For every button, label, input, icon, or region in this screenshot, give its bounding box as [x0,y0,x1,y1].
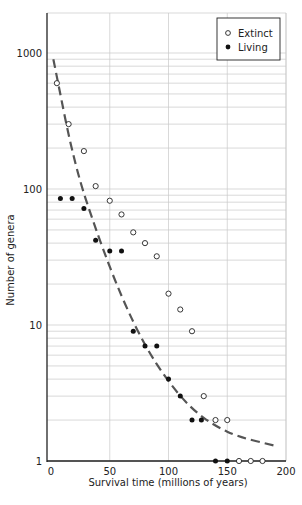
y-tick-label: 1 [36,456,42,467]
living-point [190,418,195,423]
legend-extinct: Extinct [238,28,273,39]
living-point [213,459,218,464]
extinct-point [225,417,230,422]
living-legend-icon [226,45,231,50]
grid [47,13,286,461]
extinct-point [201,394,206,399]
extinct-point [119,212,124,217]
fitted-curve [53,59,274,445]
extinct-point [66,122,71,127]
living-point [119,249,124,254]
extinct-point [189,329,194,334]
living-point [58,196,63,201]
extinct-point [131,230,136,235]
survival-chart: 0501001502001101001000 ExtinctLiving Sur… [0,0,302,505]
living-point [166,377,171,382]
y-tick-label: 10 [29,320,42,331]
x-tick-label: 150 [218,466,237,477]
living-point [107,249,112,254]
x-axis-label: Survival time (millions of years) [88,477,247,488]
living-point [225,459,230,464]
living-point [93,238,98,243]
living-point [199,418,204,423]
extinct-legend-icon [226,31,231,36]
x-tick-label: 200 [276,466,295,477]
living-point [143,344,148,349]
extinct-point [107,198,112,203]
legend-living: Living [238,42,268,53]
y-tick-label: 1000 [17,48,42,59]
extinct-point [93,184,98,189]
extinct-point [142,241,147,246]
extinct-point [248,458,253,463]
extinct-point [166,291,171,296]
y-axis-label: Number of genera [5,214,16,305]
extinct-point [154,254,159,259]
x-tick-label: 100 [159,466,178,477]
x-tick-label: 50 [103,466,116,477]
extinct-point [54,81,59,86]
living-point [154,344,159,349]
extinct-point [260,458,265,463]
data-points [54,81,265,464]
living-point [131,329,136,334]
x-tick-label: 0 [48,466,54,477]
living-point [178,394,183,399]
living-point [70,196,75,201]
extinct-point [178,307,183,312]
legend: ExtinctLiving [217,18,280,60]
living-point [81,206,86,211]
extinct-point [236,458,241,463]
y-tick-label: 100 [23,184,42,195]
extinct-point [81,148,86,153]
extinct-point [213,417,218,422]
